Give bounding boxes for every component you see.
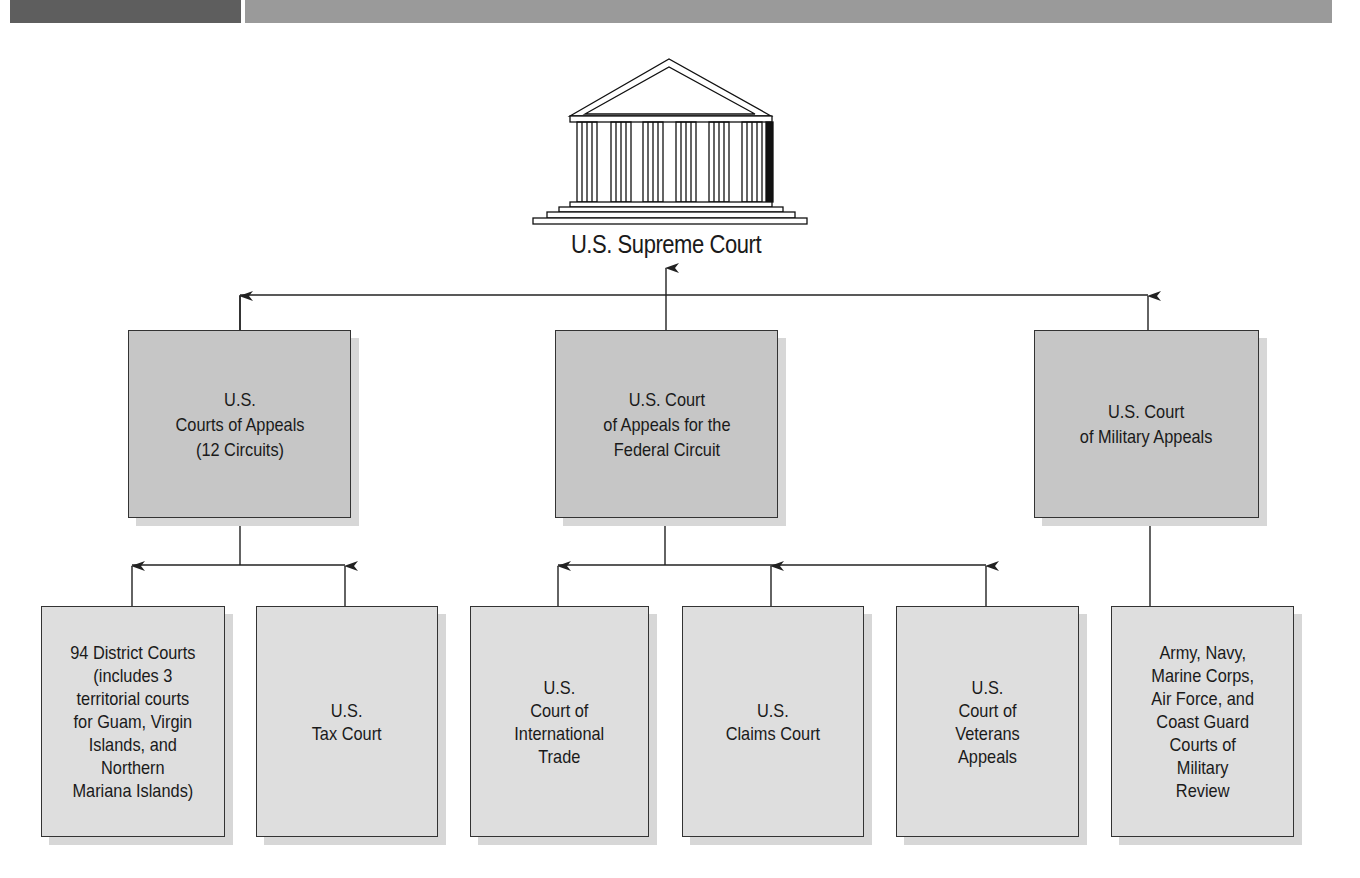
box-label: 94 District Courts (includes 3 territori…: [70, 641, 195, 802]
box-label: U.S. Court of Veterans Appeals: [955, 676, 1020, 768]
box-label: U.S. Courts of Appeals (12 Circuits): [175, 387, 304, 462]
box-tax-court: U.S. Tax Court: [256, 606, 438, 837]
supreme-court-title: U.S. Supreme Court: [534, 230, 798, 259]
box-label: U.S. Tax Court: [312, 699, 382, 745]
box-military-review: Army, Navy, Marine Corps, Air Force, and…: [1111, 606, 1294, 837]
box-international-trade: U.S. Court of International Trade: [470, 606, 649, 837]
box-label: U.S. Court of Appeals for the Federal Ci…: [603, 387, 730, 462]
box-district-courts: 94 District Courts (includes 3 territori…: [41, 606, 225, 837]
box-military-appeals: U.S. Court of Military Appeals: [1034, 330, 1259, 518]
box-federal-circuit: U.S. Court of Appeals for the Federal Ci…: [555, 330, 778, 518]
box-claims-court: U.S. Claims Court: [682, 606, 864, 837]
box-label: U.S. Court of Military Appeals: [1080, 399, 1213, 449]
box-label: U.S. Court of International Trade: [515, 676, 605, 768]
box-veterans-appeals: U.S. Court of Veterans Appeals: [896, 606, 1079, 837]
box-label: Army, Navy, Marine Corps, Air Force, and…: [1151, 641, 1254, 802]
box-label: U.S. Claims Court: [726, 699, 820, 745]
box-courts-of-appeals: U.S. Courts of Appeals (12 Circuits): [128, 330, 351, 518]
courthouse-icon: [533, 59, 807, 224]
